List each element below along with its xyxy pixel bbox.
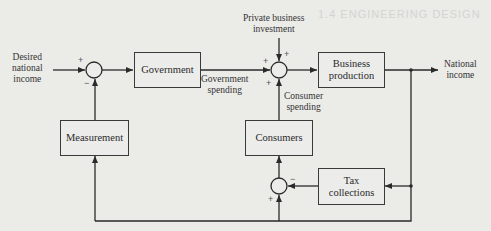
economic-feedback-diagram: 1.4 ENGINEERING DESIGN (0, 0, 491, 231)
sum3-minus-sign: − (290, 174, 295, 184)
consumer-spending-label: Consumer spending (284, 91, 323, 113)
sum3-plus-sign: + (268, 194, 273, 204)
summing-junction-1 (86, 62, 102, 78)
summing-junction-2 (271, 62, 287, 78)
summing-junction-3 (271, 178, 287, 194)
consumers-block-label: Consumers (255, 132, 302, 144)
tax-collections-block-label: Tax collections (329, 175, 375, 199)
national-income-label: National income (444, 59, 477, 81)
sum2-plus-top-sign: + (284, 49, 289, 59)
measurement-block: Measurement (60, 120, 129, 156)
measurement-block-label: Measurement (66, 132, 123, 144)
government-spending-label: Government spending (201, 74, 249, 96)
consumers-block: Consumers (245, 120, 313, 156)
business-production-block-label: Business production (329, 58, 375, 82)
business-production-block: Business production (318, 52, 385, 88)
sum2-plus-bottom-sign: + (266, 78, 271, 88)
sum1-plus-sign: + (78, 55, 83, 65)
sum2-plus-left-sign: + (263, 56, 268, 66)
sum1-minus-sign: − (84, 78, 89, 88)
government-block-label: Government (141, 64, 194, 76)
tax-collections-block: Tax collections (318, 168, 385, 205)
government-block: Government (134, 52, 201, 88)
desired-national-income-label: Desired national income (12, 52, 43, 85)
private-business-investment-label: Private business investment (243, 13, 304, 35)
